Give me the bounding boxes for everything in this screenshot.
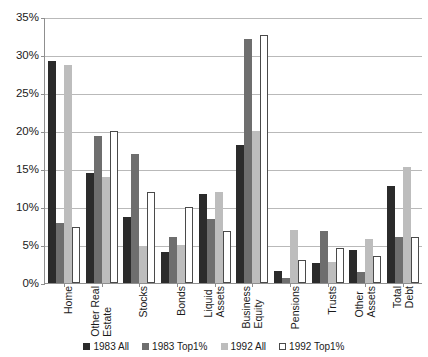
x-axis-label: Trusts xyxy=(327,286,339,315)
legend-label: 1992 Top1% xyxy=(289,341,344,352)
bar-groups xyxy=(45,18,422,283)
x-axis-label-line: Equity xyxy=(252,286,264,329)
y-tick-mark xyxy=(41,246,45,247)
bar xyxy=(110,131,118,283)
bar-group xyxy=(83,18,121,283)
bar xyxy=(357,272,365,283)
x-axis-label-line: Assets xyxy=(365,286,377,318)
bar xyxy=(147,192,155,283)
x-axis-label-line: Business xyxy=(240,286,252,329)
y-tick-label: 25% xyxy=(0,88,39,100)
y-tick-mark xyxy=(41,94,45,95)
bar xyxy=(312,263,320,283)
bar xyxy=(139,246,147,283)
x-label-cell: Trusts xyxy=(309,286,347,338)
y-tick-mark xyxy=(41,208,45,209)
legend-item: 1983 All xyxy=(83,341,129,352)
bar-group xyxy=(271,18,309,283)
legend-swatch xyxy=(83,343,90,350)
bar xyxy=(223,231,231,283)
y-tick-mark xyxy=(41,18,45,19)
bar xyxy=(328,262,336,283)
x-axis-label-line: Bonds xyxy=(176,286,188,316)
bar-group xyxy=(347,18,385,283)
x-axis-label-line: Estate xyxy=(101,286,113,337)
bar xyxy=(123,217,131,283)
bar xyxy=(215,192,223,283)
x-axis-label-line: Trusts xyxy=(327,286,339,315)
legend-swatch xyxy=(221,343,228,350)
y-tick-mark xyxy=(41,284,45,285)
x-axis-label-line: Assets xyxy=(214,286,226,318)
y-tick-label: 0% xyxy=(0,278,39,290)
y-tick-label: 15% xyxy=(0,164,39,176)
bar xyxy=(199,194,207,283)
legend-swatch xyxy=(142,343,149,350)
bar xyxy=(131,154,139,283)
bar xyxy=(387,186,395,283)
bar xyxy=(244,39,252,283)
y-tick-mark xyxy=(41,170,45,171)
bar xyxy=(161,252,169,283)
bar-chart: HomeOther RealEstateStocksBondsLiquidAss… xyxy=(0,0,428,357)
x-label-cell: OtherAssets xyxy=(346,286,384,338)
x-axis-label: BusinessEquity xyxy=(240,286,263,329)
x-label-cell: Other RealEstate xyxy=(82,286,120,338)
y-tick-label: 20% xyxy=(0,126,39,138)
bar xyxy=(260,35,268,283)
x-label-cell: Stocks xyxy=(120,286,158,338)
bar xyxy=(403,167,411,283)
bar xyxy=(185,207,193,283)
bar xyxy=(72,227,80,283)
bar xyxy=(252,131,260,283)
legend-item: 1992 Top1% xyxy=(279,341,344,352)
bar-group xyxy=(234,18,272,283)
y-tick-mark xyxy=(41,132,45,133)
y-tick-label: 10% xyxy=(0,202,39,214)
y-tick-label: 30% xyxy=(0,50,39,62)
x-label-cell: Home xyxy=(44,286,82,338)
chart-legend: 1983 All1983 Top1%1992 All1992 Top1% xyxy=(0,341,428,352)
bar-group xyxy=(196,18,234,283)
bar xyxy=(94,136,102,283)
bar xyxy=(64,65,72,283)
bar xyxy=(86,173,94,283)
x-axis-label-line: Total xyxy=(392,286,404,308)
bar xyxy=(290,230,298,283)
bar xyxy=(349,250,357,283)
x-axis-label-line: Stocks xyxy=(138,286,150,318)
legend-label: 1983 All xyxy=(93,341,129,352)
x-axis-label: Other RealEstate xyxy=(89,286,112,337)
legend-label: 1992 All xyxy=(231,341,267,352)
bar xyxy=(177,245,185,283)
bar xyxy=(411,237,419,283)
x-axis-label: Pensions xyxy=(290,286,302,329)
x-axis-label: LiquidAssets xyxy=(203,286,226,318)
x-axis-label-line: Liquid xyxy=(203,286,215,318)
legend-swatch xyxy=(279,343,286,350)
x-label-cell: TotalDebt xyxy=(384,286,422,338)
x-label-cell: Pensions xyxy=(271,286,309,338)
x-axis-label: TotalDebt xyxy=(392,286,415,308)
y-tick-label: 35% xyxy=(0,12,39,24)
bar xyxy=(298,260,306,283)
bar xyxy=(236,145,244,283)
bar xyxy=(365,239,373,283)
bar xyxy=(373,256,381,283)
bar-group xyxy=(120,18,158,283)
x-axis-label-line: Debt xyxy=(403,286,415,308)
y-tick-mark xyxy=(41,56,45,57)
y-tick-label: 5% xyxy=(0,240,39,252)
legend-item: 1992 All xyxy=(221,341,267,352)
x-axis-label: OtherAssets xyxy=(354,286,377,318)
bar-group xyxy=(384,18,422,283)
bar xyxy=(56,223,64,283)
bar xyxy=(320,231,328,283)
x-axis-labels: HomeOther RealEstateStocksBondsLiquidAss… xyxy=(44,286,422,338)
x-label-cell: BusinessEquity xyxy=(233,286,271,338)
legend-label: 1983 Top1% xyxy=(152,341,207,352)
bar xyxy=(274,271,282,283)
x-axis-label: Bonds xyxy=(176,286,188,316)
x-axis-label: Home xyxy=(63,286,75,314)
x-axis-label-line: Pensions xyxy=(290,286,302,329)
